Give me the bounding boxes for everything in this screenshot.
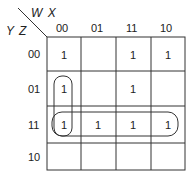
kmap-cell: 1 (116, 71, 150, 106)
kmap-cell (151, 71, 185, 106)
kmap-cell: 1 (81, 106, 115, 143)
col-label: 00 (56, 22, 68, 34)
col-label: 11 (126, 22, 137, 34)
kmap-cell (81, 71, 115, 106)
kmap-cell (81, 143, 115, 170)
kmap-cell: 1 (47, 37, 81, 72)
row-label: 10 (28, 151, 40, 163)
row-variable-label: Y Z (6, 24, 27, 38)
col-label: 10 (160, 22, 172, 34)
kmap-cell (81, 37, 115, 72)
kmap-cell: 1 (151, 106, 185, 143)
kmap-cell (116, 143, 150, 170)
row-label: 00 (28, 48, 40, 60)
kmap-cell: 1 (47, 71, 81, 106)
row-label: 11 (28, 119, 39, 131)
row-label: 01 (28, 83, 40, 95)
kmap-cell: 1 (47, 106, 81, 143)
col-label: 01 (91, 22, 103, 34)
kmap-cell (47, 143, 81, 170)
kmap-cell: 1 (151, 37, 185, 72)
column-variable-label: W X (31, 6, 57, 20)
kmap-cell (151, 143, 185, 170)
kmap-cell: 1 (116, 106, 150, 143)
kmap-cell: 1 (116, 37, 150, 72)
